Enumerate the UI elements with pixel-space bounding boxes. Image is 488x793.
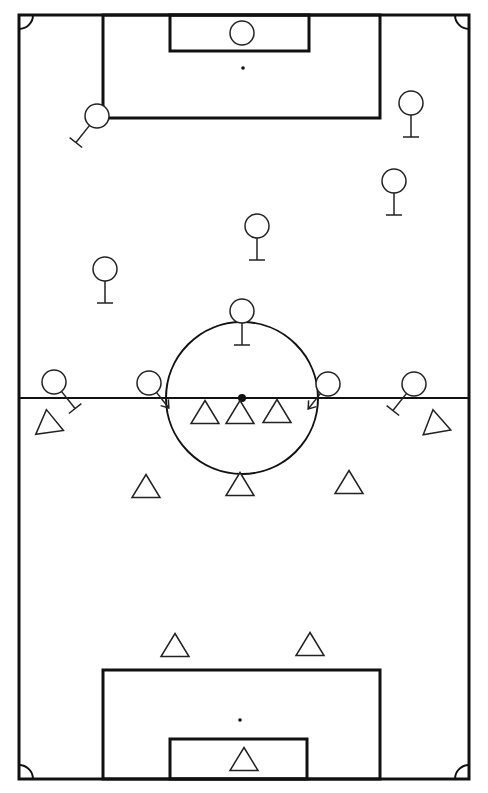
triangle-player-icon (263, 400, 291, 423)
player-circle-c-left-mid (93, 257, 117, 303)
player-circle-c-right-wing (387, 372, 426, 415)
player-circle-c-left-wing (42, 370, 81, 413)
triangle-player-icon (419, 407, 451, 435)
player-circle-c-left-inside (137, 371, 169, 408)
corner-arc-bottom-left (19, 765, 33, 779)
player-circle-c-left-back (70, 104, 109, 147)
circle-player-icon (245, 214, 269, 238)
soccer-pitch-diagram (0, 0, 488, 793)
block-line-icon (76, 125, 90, 142)
circle-player-icon (85, 104, 109, 128)
circle-player-icon (42, 370, 66, 394)
block-bar (387, 406, 399, 416)
triangle-player-icon (230, 748, 258, 771)
circle-player-icon (230, 21, 254, 45)
triangle-player-icon (191, 401, 219, 424)
circle-player-icon (316, 372, 340, 396)
circle-player-icon (230, 299, 254, 323)
block-line-icon (393, 393, 407, 410)
block-bar (70, 138, 82, 148)
circle-player-icon (402, 372, 426, 396)
circle-player-icon (93, 257, 117, 281)
triangle-player-icon (33, 408, 64, 435)
corner-arc-top-left (19, 15, 33, 29)
player-circle-c-right-center-back (382, 169, 406, 215)
corner-arc-bottom-right (455, 765, 469, 779)
team-triangles (33, 400, 451, 771)
player-circle-c-center-mid (245, 214, 269, 260)
block-bar (69, 404, 81, 414)
triangle-player-icon (296, 633, 324, 656)
circle-player-icon (399, 91, 423, 115)
triangle-player-icon (335, 471, 363, 494)
circle-player-icon (382, 169, 406, 193)
bottom-penalty-spot (238, 718, 242, 722)
top-penalty-spot (241, 66, 245, 70)
triangle-player-icon (226, 401, 254, 424)
team-circles (42, 21, 426, 415)
player-circle-c-right-back (399, 91, 423, 137)
player-circle-c-right-inside (308, 372, 340, 409)
circle-player-icon (137, 371, 161, 395)
player-circle-c-goalkeeper (230, 21, 254, 45)
triangle-player-icon (226, 473, 254, 496)
block-line-icon (61, 391, 75, 408)
triangle-player-icon (132, 475, 160, 498)
triangle-player-icon (161, 634, 189, 657)
corner-arc-top-right (455, 15, 469, 29)
